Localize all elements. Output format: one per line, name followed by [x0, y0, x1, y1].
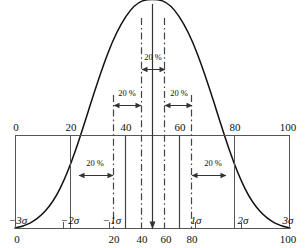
normal-distribution-figure: 20 % 20 % 20 % 20 % 20 % [0, 0, 305, 248]
sigma-label-minus-3: −3σ [9, 214, 28, 226]
top-scale-tick-60: 60 [175, 121, 187, 133]
sigma-label-plus-3: 3σ [282, 214, 295, 226]
top-scale-tick-20: 20 [66, 121, 78, 133]
bottom-scale-tick-60: 60 [161, 233, 173, 245]
bottom-scale-tick-0: 0 [14, 233, 20, 245]
top-scale-tick-40: 40 [121, 121, 133, 133]
bottom-scale-tick-40: 40 [137, 233, 149, 245]
band-center-label: 20 % [144, 52, 162, 62]
top-scale-tick-80: 80 [230, 121, 242, 133]
bottom-scale-tick-80: 80 [187, 233, 199, 245]
bottom-scale-tick-20: 20 [109, 233, 121, 245]
band-right-outer-label: 20 % [204, 158, 222, 168]
bottom-scale-tick-100: 100 [280, 233, 297, 245]
chart-canvas: 20 % 20 % 20 % 20 % 20 % [0, 0, 305, 248]
band-right-inner-label: 20 % [170, 88, 188, 98]
top-scale-tick-0: 0 [13, 121, 19, 133]
band-left-inner-label: 20 % [118, 88, 136, 98]
sigma-label-plus-1: 1σ [191, 214, 203, 226]
band-left-outer-label: 20 % [86, 158, 104, 168]
sigma-label-plus-2: 2σ [238, 214, 250, 226]
top-scale-tick-100: 100 [280, 121, 297, 133]
sigma-label-minus-1: −1σ [103, 214, 122, 226]
